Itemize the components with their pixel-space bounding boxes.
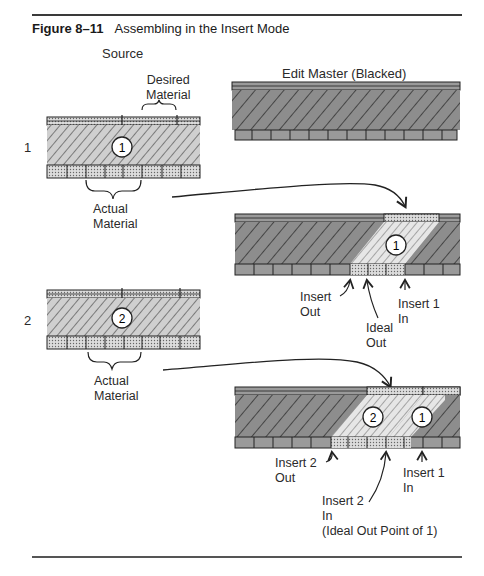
actual-material-brace-2 — [88, 352, 141, 369]
ideal-out-label: Ideal Out — [366, 321, 393, 351]
desired-material-label: Desired Material — [146, 73, 190, 103]
edit-master-blacked — [232, 82, 460, 140]
transfer-arrow-2 — [163, 359, 390, 386]
insert-2-in-label: Insert 2 In (Ideal Out Point of 1) — [322, 494, 437, 539]
result-master-1 — [235, 214, 460, 275]
source-clip-number-2: 2 — [119, 312, 126, 326]
transfer-arrow-1 — [172, 184, 405, 206]
insert-2-out-label: Insert 2 Out — [275, 456, 317, 486]
step-2-label: 2 — [24, 313, 31, 328]
actual-material-label-2: Actual Material — [94, 374, 138, 404]
step-1-label: 1 — [24, 140, 31, 155]
row1-annotation-arrows — [340, 281, 405, 318]
source-column-label: Source — [102, 46, 143, 61]
result-master-2 — [235, 387, 460, 448]
result-clip-2a: 2 — [370, 411, 377, 425]
actual-material-label-1: Actual Material — [93, 202, 137, 232]
result-clip-1: 1 — [393, 239, 400, 253]
insert-out-label: Insert Out — [300, 290, 331, 320]
actual-material-brace-1 — [86, 180, 141, 199]
insert-1-in-label-row1: Insert 1 In — [398, 297, 440, 327]
bottom-rule — [32, 556, 462, 558]
edit-master-column-label: Edit Master (Blacked) — [282, 66, 406, 81]
result-clip-2b: 1 — [419, 411, 426, 425]
insert-1-in-label-row2: Insert 1 In — [403, 466, 445, 496]
source-clip-number-1: 1 — [119, 141, 126, 155]
